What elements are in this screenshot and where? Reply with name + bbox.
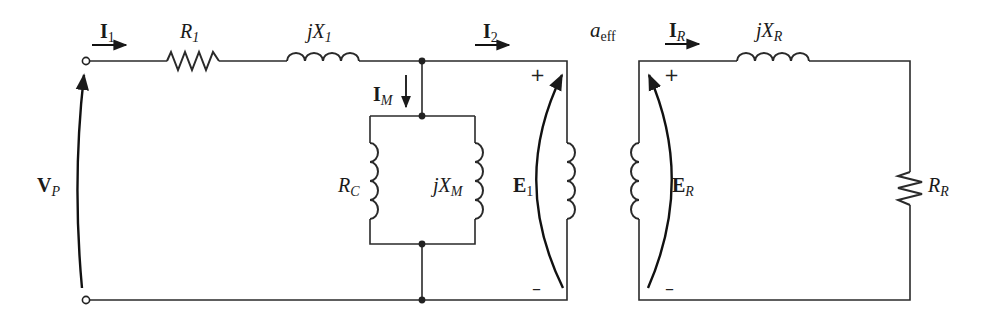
voltage-arrow-e1 [536, 75, 563, 288]
label-i2: I2 [483, 21, 498, 45]
polarity-plus-er: + [664, 66, 679, 84]
label-rc: RC [338, 175, 360, 199]
label-jxr: jXR [756, 20, 782, 44]
wire-jxr-right [809, 61, 910, 172]
voltage-arrow-er [648, 75, 672, 288]
wire-secondary-top [639, 61, 737, 143]
resistor-r1 [167, 52, 219, 70]
polarity-minus-e1: – [532, 279, 541, 297]
label-rr: RR [928, 175, 949, 199]
label-im: IM [373, 84, 392, 108]
inductor-primary-winding [567, 143, 575, 219]
node-top [419, 58, 426, 65]
wire-rc-bottom [370, 219, 475, 244]
label-ir: IR [669, 20, 685, 44]
terminal-bottom [82, 296, 89, 303]
inductor-jxr [737, 53, 809, 61]
wire-primary-bottom [90, 219, 567, 300]
label-i1: I1 [100, 21, 115, 45]
node-bottom [419, 297, 426, 304]
resistor-rr [898, 172, 922, 205]
polarity-minus-er: – [665, 279, 674, 297]
node-shunt-bottom [419, 241, 426, 248]
label-e1: E1 [513, 175, 533, 199]
wire-secondary-bottom [639, 205, 910, 300]
polarity-plus-e1: + [530, 66, 545, 84]
label-er: ER [672, 175, 694, 199]
label-aeff: aeff [590, 20, 616, 44]
inductor-jxm [475, 143, 483, 219]
label-r1: R1 [180, 21, 199, 45]
terminal-top [82, 57, 89, 64]
inductor-jx1 [287, 53, 359, 61]
circuit-diagram [0, 0, 991, 323]
inductor-secondary-winding [631, 143, 639, 219]
label-jxm: jXM [433, 175, 462, 199]
label-jx1: jX1 [307, 21, 332, 45]
label-vp: VP [37, 175, 60, 199]
inductor-rc [370, 143, 378, 219]
node-shunt-top [419, 113, 426, 120]
voltage-arrow-vp [77, 75, 84, 288]
